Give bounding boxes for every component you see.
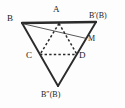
vertex-dot-A [58,22,59,23]
label-B: B [7,14,13,23]
fold-A-to-D [59,24,77,55]
line-B-to-M [22,24,87,39]
label-D: D [79,51,86,60]
label-C: C [26,51,32,60]
label-A: A [53,5,60,14]
geometry-figure: B A B′(B) M C D B″(B) [0,0,125,108]
label-Bdprime: B″(B) [41,91,60,99]
label-M: M [88,35,95,43]
label-Bprime: B′(B) [89,12,107,20]
